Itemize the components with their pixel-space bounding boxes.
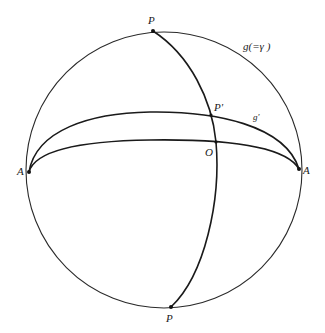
label-A-right: A — [302, 164, 310, 176]
label-g: g(=γ ) — [243, 40, 271, 53]
point-P-prime — [209, 113, 212, 116]
label-P-prime: P' — [213, 101, 224, 113]
label-A-left: A — [16, 165, 24, 177]
label-P-bottom: P — [165, 312, 173, 324]
point-A-right — [297, 167, 301, 171]
label-O: O — [205, 146, 213, 158]
sphere-diagram: P P A A O P' g(=γ ) g' — [0, 0, 325, 333]
point-A-left — [27, 170, 31, 174]
point-O — [214, 140, 217, 143]
point-P-bottom — [169, 305, 173, 309]
point-P-top — [151, 29, 155, 33]
meridian-curve — [153, 31, 217, 307]
label-g-prime: g' — [253, 112, 261, 122]
great-circle-g — [26, 32, 302, 308]
equator-curve-AOA — [29, 140, 299, 172]
label-P-top: P — [147, 14, 155, 26]
